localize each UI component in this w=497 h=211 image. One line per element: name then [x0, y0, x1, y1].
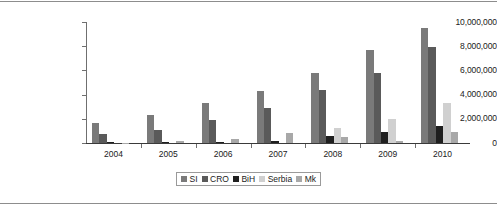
- figure-container: 02,000,0004,000,0006,000,0008,000,00010,…: [0, 0, 497, 211]
- bar-group: [202, 22, 239, 143]
- legend-swatch-icon: [233, 176, 239, 182]
- legend-item: SI: [181, 175, 198, 184]
- bar-group: [311, 22, 348, 143]
- bar-group: [92, 22, 129, 143]
- y-axis-tick-mark: [82, 70, 86, 71]
- bar: [326, 136, 333, 144]
- y-axis-tick-mark: [82, 46, 86, 47]
- y-axis-tick-mark: [82, 143, 86, 144]
- bar: [319, 90, 326, 143]
- bar: [311, 73, 318, 143]
- bar: [216, 142, 223, 143]
- legend-label: Serbia: [268, 175, 293, 184]
- bar: [107, 142, 114, 143]
- x-axis-tick-mark: [196, 144, 197, 148]
- legend-item: CRO: [202, 175, 229, 184]
- x-axis-category-label: 2006: [196, 150, 251, 159]
- chart-legend: SICROBiHSerbiaMk: [176, 172, 321, 186]
- legend-label: BiH: [241, 175, 255, 184]
- bar-group: [147, 22, 184, 143]
- bar: [366, 50, 373, 143]
- legend-item: BiH: [233, 175, 255, 184]
- y-axis-tick-mark: [82, 22, 86, 23]
- x-axis-tick-mark: [251, 144, 252, 148]
- legend-label: SI: [190, 175, 198, 184]
- bar: [374, 73, 381, 143]
- bar-group: [421, 22, 458, 143]
- bar: [428, 47, 435, 143]
- bar: [381, 132, 388, 143]
- y-axis-tick-mark: [82, 95, 86, 96]
- legend-label: Mk: [305, 175, 316, 184]
- legend-swatch-icon: [259, 176, 265, 182]
- bar-group: [366, 22, 403, 143]
- x-axis-tick-mark: [360, 144, 361, 148]
- x-axis-category-label: 2004: [86, 150, 141, 159]
- x-axis-line: [86, 143, 470, 144]
- y-axis-line: [86, 22, 87, 144]
- bar: [147, 115, 154, 143]
- bar: [421, 28, 428, 143]
- legend-swatch-icon: [181, 176, 187, 182]
- bar: [388, 119, 395, 143]
- bar: [451, 132, 458, 143]
- bar: [286, 133, 293, 143]
- bar: [99, 134, 106, 143]
- bar: [257, 91, 264, 143]
- legend-label: CRO: [210, 175, 229, 184]
- bar: [271, 141, 278, 143]
- bar: [341, 137, 348, 143]
- bar: [92, 123, 99, 143]
- bar: [202, 103, 209, 143]
- bar: [231, 139, 238, 143]
- bar: [264, 108, 271, 143]
- x-axis-category-label: 2010: [415, 150, 470, 159]
- legend-swatch-icon: [296, 176, 302, 182]
- x-axis-tick-mark: [141, 144, 142, 148]
- legend-item: Serbia: [259, 175, 292, 184]
- x-axis-tick-mark: [305, 144, 306, 148]
- x-axis-category-label: 2009: [360, 150, 415, 159]
- bar-group: [257, 22, 294, 143]
- y-axis-tick-mark: [82, 119, 86, 120]
- legend-swatch-icon: [202, 176, 208, 182]
- legend-item: Mk: [296, 175, 316, 184]
- bar: [436, 126, 443, 143]
- bar: [443, 103, 450, 143]
- x-axis-category-label: 2008: [305, 150, 360, 159]
- bar: [396, 141, 403, 143]
- x-axis-category-label: 2007: [251, 150, 306, 159]
- bar: [162, 142, 169, 143]
- bar: [154, 130, 161, 143]
- bar: [334, 128, 341, 143]
- x-axis-category-label: 2005: [141, 150, 196, 159]
- bar: [176, 141, 183, 143]
- bar: [209, 120, 216, 143]
- x-axis-tick-mark: [415, 144, 416, 148]
